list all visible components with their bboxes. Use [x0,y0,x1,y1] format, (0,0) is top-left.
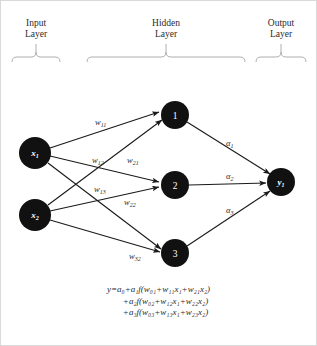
edge-h2-y1 [189,183,266,185]
weight-label-w22: w22 [124,197,136,208]
input-node-x2[interactable]: x2 [19,199,51,231]
hidden-node-2[interactable]: 2 [161,171,189,199]
alpha-labels: α1 α2 α3 [226,138,233,216]
network-equation: y=a₀+a₁f(w₀₁+w₁₁x₁+w₂₁x₂) +a₂f(w₀₂+w₁₂x₁… [0,284,317,319]
weight-label-w11: w11 [95,117,106,128]
weight-label-w21: w21 [127,155,139,166]
hidden-node-1[interactable]: 1 [161,101,189,129]
weight-labels: w11 w12 w21 w13 w22 w32 [92,117,141,262]
hidden-layer-brace [87,44,245,62]
hidden-node-2-label: 2 [173,181,178,191]
hidden-node-3-label: 3 [173,249,178,259]
hidden-node-1-label: 1 [173,111,178,121]
alpha-label-a1: α1 [226,138,233,149]
edges-input-hidden [48,112,162,252]
alpha-label-a2: α2 [226,171,233,182]
alpha-label-a3: α3 [226,205,233,216]
equation-line-3: +a₃f(w₀₃+w₁₃x₁+w₂₃x₂) [0,307,317,319]
output-layer-brace [256,44,306,62]
edge-h3-y1 [187,191,270,246]
input-node-x1[interactable]: x1 [19,137,51,169]
hidden-node-3[interactable]: 3 [161,239,189,267]
weight-label-w12: w12 [92,155,104,166]
output-node-y1[interactable]: y1 [267,168,295,196]
weight-label-w13: w13 [94,184,106,195]
weight-label-w32: w32 [129,251,141,262]
equation-line-2: +a₂f(w₀₂+w₁₂x₁+w₂₂x₂) [0,296,317,308]
equation-line-1: y=a₀+a₁f(w₀₁+w₁₁x₁+w₂₁x₂) [0,284,317,296]
input-layer-brace [12,44,60,62]
edge-x1-h2 [50,156,159,182]
edge-h1-y1 [187,122,270,174]
edge-x1-h1 [50,112,159,148]
